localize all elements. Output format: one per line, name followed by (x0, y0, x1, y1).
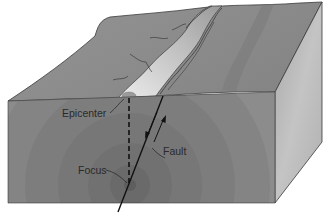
earthquake-diagram: Epicenter Fault Focus (0, 0, 330, 213)
focus-label: Focus (78, 165, 107, 176)
epicenter-label: Epicenter (62, 108, 106, 119)
fault-label: Fault (163, 146, 186, 157)
block-diagram-svg (0, 0, 330, 213)
